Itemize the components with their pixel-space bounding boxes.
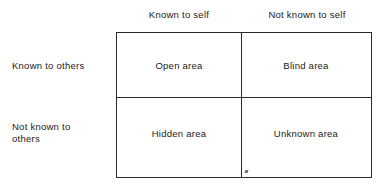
quadrant-hidden-area: Hidden area: [117, 98, 241, 176]
row-header-known-to-others: Known to others: [12, 60, 112, 72]
quadrant-blind-area-label: Blind area: [283, 60, 328, 71]
quadrant-unknown-area-label: Unknown area: [274, 128, 338, 139]
row-header-not-known-to-others: Not known to others: [12, 121, 112, 144]
quadrant-open-area: Open area: [117, 33, 241, 97]
row-header-not-known-to-others-line-2: others: [12, 133, 112, 145]
quadrant-open-area-label: Open area: [155, 60, 202, 71]
quadrant-blind-area: Blind area: [242, 33, 370, 97]
row-header-not-known-to-others-line-1: Not known to: [12, 121, 112, 133]
matrix-frame: Open area Blind area Hidden area Unknown…: [116, 32, 372, 178]
column-header-not-known-to-self: Not known to self: [242, 9, 372, 21]
quadrant-hidden-area-label: Hidden area: [152, 128, 207, 139]
column-header-known-to-self: Known to self: [116, 9, 242, 21]
johari-window-diagram: Known to self Not known to self Known to…: [0, 0, 381, 191]
quadrant-unknown-area: Unknown area: [242, 98, 370, 176]
